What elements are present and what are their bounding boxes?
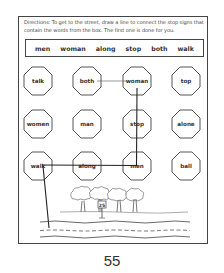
page-number: 55 <box>0 252 224 269</box>
path-line-vertical <box>137 88 138 166</box>
trees-icon <box>71 186 144 201</box>
road-center-dashes <box>40 230 190 231</box>
path-and-street-drawing: 25 <box>0 0 224 273</box>
path-line-to-street <box>43 166 49 228</box>
road-upper-edge <box>40 221 190 223</box>
grass-line <box>60 212 188 214</box>
path-line-horizontal <box>42 165 137 166</box>
road-lower-edge <box>40 236 190 238</box>
svg-text:25: 25 <box>99 203 105 208</box>
tree-trunks <box>81 199 137 212</box>
